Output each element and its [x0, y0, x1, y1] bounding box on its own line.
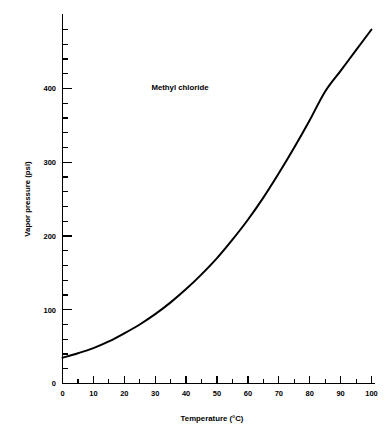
x-tick-label: 80 — [306, 389, 314, 398]
y-tick-label: 200 — [43, 232, 56, 241]
vapor-pressure-line-chart: 0100200300400 0102030405060708090100 Met… — [0, 0, 391, 435]
x-tick-label: 60 — [244, 389, 252, 398]
x-tick-label: 90 — [336, 389, 344, 398]
x-tick-label: 70 — [275, 389, 283, 398]
x-tick-label: 50 — [213, 389, 221, 398]
chart-figure: 0100200300400 0102030405060708090100 Met… — [0, 0, 391, 435]
y-tick-label: 300 — [43, 158, 56, 167]
x-axis-title: Temperature (°C) — [181, 414, 244, 423]
x-tick-label: 100 — [365, 389, 378, 398]
x-tick-label: 20 — [120, 389, 128, 398]
x-tick-label: 30 — [151, 389, 159, 398]
series-annotation-label: Methyl chloride — [151, 83, 209, 92]
plot-background — [0, 0, 391, 435]
y-tick-label: 0 — [52, 379, 56, 388]
x-tick-label: 10 — [89, 389, 97, 398]
x-tick-label: 40 — [182, 389, 190, 398]
y-tick-label: 400 — [43, 84, 56, 93]
y-tick-label: 100 — [43, 306, 56, 315]
x-tick-label: 0 — [60, 389, 64, 398]
y-axis-title: Vapor pressure (psi) — [23, 161, 32, 237]
